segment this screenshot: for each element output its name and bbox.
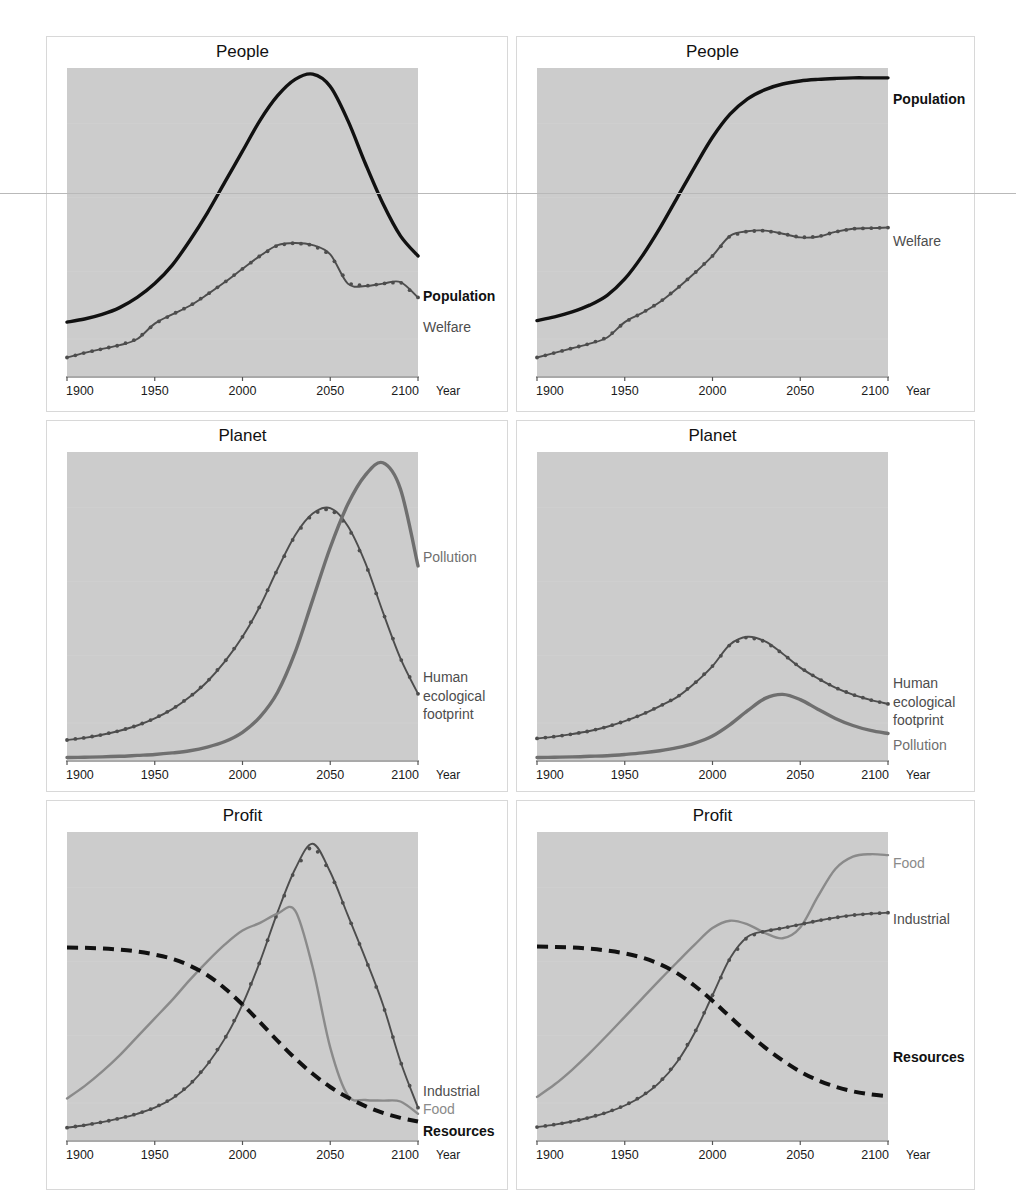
data-point-marker (635, 714, 639, 718)
x-axis-name: Year (436, 384, 460, 398)
data-point-marker (149, 718, 153, 722)
data-point-marker (543, 353, 547, 357)
x-tick-label: 1950 (141, 768, 169, 782)
data-point-marker (543, 1124, 547, 1128)
data-point-marker (349, 921, 353, 925)
plot-area-profit-right: 19001950200020502100YearFoodIndustrialRe… (517, 801, 976, 1191)
data-point-marker (65, 1126, 69, 1130)
data-point-marker (560, 734, 564, 738)
data-point-marker (165, 315, 169, 319)
data-point-marker (391, 1035, 395, 1039)
data-point-marker (374, 283, 378, 287)
x-axis-name: Year (436, 768, 460, 782)
data-point-marker (274, 244, 278, 248)
data-point-marker (769, 230, 773, 234)
data-point-marker (274, 571, 278, 575)
x-tick-label: 2000 (229, 768, 257, 782)
x-tick-label: 2100 (861, 1148, 889, 1162)
x-tick-label: 1950 (141, 1148, 169, 1162)
data-point-marker (794, 662, 798, 666)
data-point-marker (769, 928, 773, 932)
data-point-marker (794, 923, 798, 927)
data-point-marker (224, 1035, 228, 1039)
data-point-marker (727, 235, 731, 239)
data-point-marker (811, 673, 815, 677)
data-point-marker (90, 349, 94, 353)
data-point-marker (711, 664, 715, 668)
data-point-marker (736, 232, 740, 236)
data-point-marker (819, 918, 823, 922)
data-point-marker (391, 637, 395, 641)
data-point-marker (115, 344, 119, 348)
data-point-marker (861, 227, 865, 231)
data-point-marker (711, 993, 715, 997)
data-point-marker (366, 963, 370, 967)
x-tick-label: 2100 (861, 384, 889, 398)
x-tick-label: 2000 (699, 768, 727, 782)
data-point-marker (291, 538, 295, 542)
x-tick-label: 1950 (141, 384, 169, 398)
data-point-marker (199, 1070, 203, 1074)
data-point-marker (752, 637, 756, 641)
data-point-marker (819, 678, 823, 682)
chart-panel-planet-right: Planet19001950200020502100YearHumanecolo… (516, 420, 975, 792)
data-point-marker (594, 728, 598, 732)
x-tick-label: 1900 (536, 768, 564, 782)
data-point-marker (577, 1118, 581, 1122)
data-point-marker (383, 282, 387, 286)
data-point-marker (794, 235, 798, 239)
data-point-marker (73, 353, 77, 357)
data-point-marker (174, 311, 178, 315)
data-point-marker (358, 549, 362, 553)
data-point-marker (886, 226, 890, 230)
data-point-marker (869, 912, 873, 916)
x-tick-label: 2050 (786, 768, 814, 782)
x-tick-label: 1900 (66, 768, 94, 782)
data-point-marker (333, 510, 337, 514)
x-tick-label: 2000 (699, 1148, 727, 1162)
series-label: Human (423, 669, 468, 685)
data-point-marker (602, 1111, 606, 1115)
data-point-marker (82, 1123, 86, 1127)
data-point-marker (552, 1123, 556, 1127)
data-point-marker (257, 606, 261, 610)
data-point-marker (727, 644, 731, 648)
data-point-marker (416, 296, 420, 300)
data-point-marker (844, 690, 848, 694)
series-label: footprint (893, 712, 944, 728)
data-point-marker (73, 1125, 77, 1129)
data-point-marker (878, 911, 882, 915)
data-point-marker (585, 730, 589, 734)
data-point-marker (786, 656, 790, 660)
x-tick-label: 1950 (611, 768, 639, 782)
data-point-marker (569, 1120, 573, 1124)
data-point-marker (149, 1107, 153, 1111)
data-point-marker (711, 254, 715, 258)
data-point-marker (157, 1104, 161, 1108)
data-point-marker (635, 314, 639, 318)
data-point-marker (594, 1114, 598, 1118)
data-point-marker (299, 859, 303, 863)
data-point-marker (190, 693, 194, 697)
data-point-marker (207, 678, 211, 682)
data-point-marker (408, 288, 412, 292)
data-point-marker (569, 732, 573, 736)
data-point-marker (828, 683, 832, 687)
data-point-marker (374, 591, 378, 595)
plot-background (537, 832, 888, 1140)
series-label: ecological (423, 688, 485, 704)
data-point-marker (694, 1029, 698, 1033)
data-point-marker (157, 320, 161, 324)
data-point-marker (543, 736, 547, 740)
data-point-marker (190, 1080, 194, 1084)
x-tick-label: 1950 (611, 384, 639, 398)
data-point-marker (124, 727, 128, 731)
data-point-marker (819, 234, 823, 238)
chart-panel-profit-right: Profit19001950200020502100YearFoodIndust… (516, 800, 975, 1190)
data-point-marker (769, 644, 773, 648)
data-point-marker (836, 230, 840, 234)
x-tick-label: 2100 (391, 768, 419, 782)
data-point-marker (761, 930, 765, 934)
x-tick-label: 2050 (786, 1148, 814, 1162)
data-point-marker (90, 1122, 94, 1126)
